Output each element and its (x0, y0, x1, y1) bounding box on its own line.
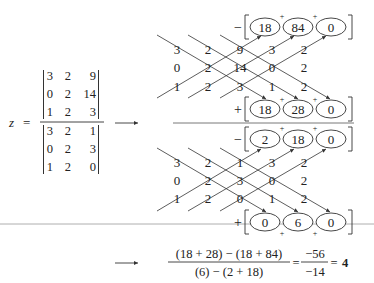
plus-marker: + (313, 227, 318, 240)
result-denominator: (6) − (2 + 18) (168, 265, 290, 280)
plus-sign: + (234, 216, 242, 229)
plus-marker: + (280, 93, 285, 106)
equals-sign: = (23, 115, 30, 131)
plus-term: 0 (328, 103, 335, 116)
plus-term: 0 (262, 216, 269, 229)
plus-term: 0 (328, 216, 335, 229)
result-numerator: (18 + 28) − (18 + 84) (168, 247, 290, 262)
plus-term: 6 (295, 216, 302, 229)
plus-marker: + (313, 93, 318, 106)
plus-term: 18 (259, 103, 272, 116)
fraction-denominator: −14 (300, 265, 330, 280)
minus-term: 18 (292, 133, 305, 146)
plus-sign: + (234, 103, 242, 116)
minus-term: 2 (262, 133, 269, 146)
plus-marker: + (280, 10, 285, 23)
minus-sign: − (234, 21, 242, 34)
fraction-numerator: −56 (300, 247, 330, 262)
answer: 4 (340, 256, 350, 271)
equals-sign: = (329, 256, 339, 271)
minus-term: 0 (328, 133, 335, 146)
minus-sign: − (234, 133, 242, 146)
minus-term: 18 (259, 21, 272, 34)
plus-marker: + (280, 122, 285, 135)
minus-term: 0 (328, 21, 335, 34)
plus-marker: + (313, 10, 318, 23)
plus-term: 28 (292, 103, 305, 116)
z-variable: z (9, 115, 14, 131)
minus-term: 84 (292, 21, 305, 34)
plus-marker: + (313, 122, 318, 135)
plus-marker: + (280, 227, 285, 240)
